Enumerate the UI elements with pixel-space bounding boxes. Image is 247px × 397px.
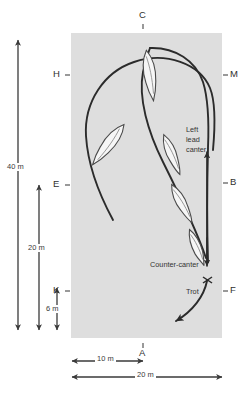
dim-label-20m: 20 m [27, 244, 46, 252]
marker-label-E: E [53, 179, 59, 190]
dim-label-6m: 6 m [45, 305, 60, 313]
marker-label-M: M [230, 69, 238, 80]
dim-label-40m: 40 m [6, 163, 25, 171]
marker-label-C: C [139, 10, 146, 21]
gait-label-trot: Trot [186, 288, 199, 296]
arena-diagram [0, 0, 247, 397]
gait-label-left-lead-canter-line3: canter [186, 146, 206, 154]
dim-label-20m-width: 20 m [135, 371, 156, 379]
vertical-dimensions-group [18, 40, 57, 330]
marker-label-H: H [53, 69, 60, 80]
dim-label-10m: 10 m [95, 355, 116, 363]
marker-label-B: B [230, 177, 236, 188]
marker-label-K: K [53, 285, 59, 296]
marker-label-A: A [139, 348, 145, 359]
gait-label-counter-canter: Counter-canter [150, 261, 199, 269]
gait-label-left-lead-canter-line2: lead [186, 136, 200, 144]
gait-label-left-lead-canter-line1: Left [186, 126, 198, 134]
marker-label-F: F [230, 285, 236, 296]
